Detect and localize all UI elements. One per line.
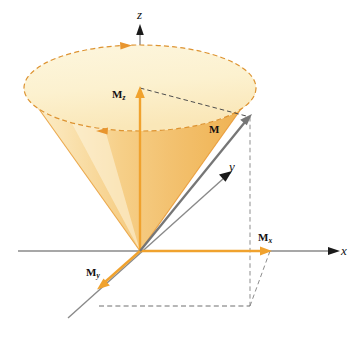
diagram-canvas: [0, 0, 357, 340]
vector-label-Mz-main: M: [112, 88, 122, 100]
vector-label-My-sub: y: [96, 271, 99, 280]
vector-label-Mx-main: M: [258, 231, 268, 243]
vector-My-shaft: [105, 251, 140, 282]
vector-label-M-main: M: [209, 123, 219, 135]
vector-Mx-arrowhead: [260, 247, 272, 256]
vector-label-Mx: Mx: [258, 232, 272, 243]
vector-label-My-main: M: [86, 266, 96, 278]
projection-to-x-axis: [250, 251, 270, 306]
precession-diagram: z y x Mz M Mx My: [0, 0, 357, 340]
vector-Mx: [140, 247, 272, 256]
vector-label-My: My: [86, 267, 100, 278]
vector-label-Mz-sub: z: [122, 93, 125, 102]
vector-label-M: M: [209, 124, 219, 135]
axis-label-x: x: [341, 244, 347, 257]
axis-label-z: z: [137, 8, 142, 21]
vector-label-Mx-sub: x: [268, 236, 272, 245]
axis-z-arrowhead: [136, 24, 144, 35]
vector-label-Mz: Mz: [112, 89, 125, 100]
axis-label-y: y: [229, 160, 235, 173]
axis-x-arrowhead: [328, 247, 340, 255]
vector-My: [97, 251, 140, 290]
